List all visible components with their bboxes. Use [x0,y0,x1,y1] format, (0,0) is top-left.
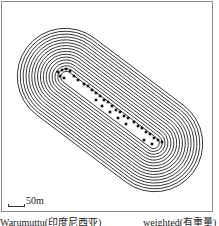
feature-dot [109,111,112,114]
feature-dot [69,70,72,73]
contour-line [46,57,173,163]
feature-dot [63,77,66,80]
figure-caption: Warumuttu(印度尼西亚) weighted(有重量) [0,214,219,226]
feature-dot [137,125,140,128]
feature-dot [133,121,136,124]
feature-dot [161,141,164,144]
feature-dot [59,75,62,78]
feature-dot [123,115,126,118]
feature-dot [101,105,104,108]
feature-dot [95,99,98,102]
feature-dot [119,111,122,114]
feature-dot [151,143,154,146]
feature-dot [149,133,152,136]
feature-dot [117,117,120,120]
contour-lines [0,9,219,211]
contour-line [6,17,214,203]
contour-line [14,25,206,195]
feature-dot [115,109,118,112]
feature-dot [65,68,68,71]
contour-plot [0,0,219,213]
feature-dot [83,83,86,86]
feature-dot [107,101,110,104]
feature-dot [157,139,160,142]
feature-dot [95,92,98,95]
scale-bar-label: 50m [26,195,44,206]
feature-dot [91,89,94,92]
feature-dot [61,69,64,72]
feature-dot [141,127,144,130]
feature-dot [87,85,90,88]
scale-bar [8,204,25,207]
feature-dot [77,79,80,82]
feature-dot [125,123,128,126]
feature-dot [57,71,60,74]
feature-dot [111,105,114,108]
feature-dot [153,137,156,140]
feature-dot [73,75,76,78]
caption-method: weighted(有重量) [143,214,216,226]
contour-line [0,9,219,211]
feature-dot [127,117,130,120]
caption-site-name: Warumuttu(印度尼西亚) [0,214,101,226]
feature-dot [145,131,148,134]
feature-dot [143,139,146,142]
contour-line [34,45,186,175]
contour-line [2,13,218,207]
feature-dot [99,95,102,98]
feature-dot [103,99,106,102]
